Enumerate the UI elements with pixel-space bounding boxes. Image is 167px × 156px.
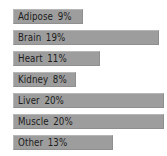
bar-label: Brain19%: [18, 30, 65, 45]
bar-value-label: 20%: [44, 94, 64, 106]
bar-category-name: Muscle: [18, 115, 49, 127]
bar-row: Brain19%: [13, 30, 159, 45]
bar-value-label: 13%: [48, 136, 68, 148]
bar-category-name: Heart: [18, 52, 43, 64]
bar-label: Liver20%: [18, 93, 64, 108]
bar-label: Adipose9%: [18, 9, 72, 24]
bar-label: Other13%: [18, 135, 67, 150]
bar-value-label: 20%: [53, 115, 73, 127]
bar-label: Muscle20%: [18, 114, 73, 129]
bar-category-name: Other: [18, 136, 43, 148]
bar-row: Muscle20%: [13, 114, 164, 129]
bar-chart: Adipose9%Brain19%Heart11%Kidney8%Liver20…: [0, 0, 167, 156]
bar-category-name: Brain: [18, 31, 41, 43]
bar-category-name: Adipose: [18, 10, 53, 22]
bar-row: Kidney8%: [13, 72, 76, 87]
bar-value-label: 9%: [58, 10, 72, 22]
bar-category-name: Liver: [18, 94, 40, 106]
bar-label: Heart11%: [18, 51, 67, 66]
bar-row: Adipose9%: [13, 9, 83, 24]
bar-value-label: 11%: [47, 52, 67, 64]
bar-value-label: 19%: [46, 31, 66, 43]
bar-value-label: 8%: [53, 73, 67, 85]
bar-category-name: Kidney: [18, 73, 48, 85]
bar-label: Kidney8%: [18, 72, 67, 87]
bar-row: Liver20%: [13, 93, 164, 108]
bar-row: Heart11%: [13, 51, 100, 66]
bar-row: Other13%: [13, 135, 113, 150]
